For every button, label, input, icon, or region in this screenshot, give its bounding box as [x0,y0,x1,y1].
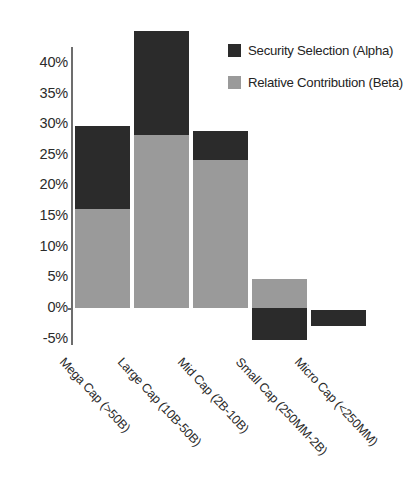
stacked-bar-chart: 40% 35% 30% 25% 20% 15% 10% 5% 0% -5% [0,0,416,498]
x-axis-labels: Mega Cap (>50B) Large Cap (10B-50B) Mid … [0,0,416,498]
